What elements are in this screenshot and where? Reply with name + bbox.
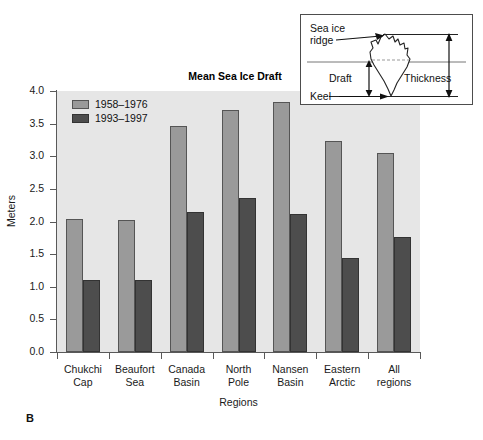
y-tick-label-0.0: 0.0 — [0, 346, 44, 356]
legend: 1958–1976 1993–1997 — [72, 98, 148, 126]
x-category-line: North — [213, 363, 265, 376]
x-tick-separator — [213, 353, 214, 359]
legend-swatch-1993-1997 — [72, 114, 89, 123]
bar — [273, 102, 290, 352]
inset-label-sea-ice-ridge-line1: Sea ice — [310, 22, 345, 34]
ridge-pointer-line — [336, 36, 381, 40]
x-tick-separator — [316, 353, 317, 359]
y-axis-line — [56, 90, 57, 353]
y-tick-label-3.0: 3.0 — [0, 150, 44, 160]
bar — [83, 280, 100, 352]
x-category-line: Pole — [213, 376, 265, 389]
bar — [394, 237, 411, 352]
bar — [118, 220, 135, 352]
bar — [377, 153, 394, 352]
inset-label-sea-ice-ridge-line2: ridge — [310, 34, 334, 46]
x-tick-separator — [161, 353, 162, 359]
x-tick-end-1 — [420, 353, 421, 359]
x-category-label: NansenBasin — [264, 363, 316, 389]
legend-label-1958-1976: 1958–1976 — [95, 98, 148, 111]
y-tick-0.0 — [50, 352, 56, 353]
y-tick-2.5 — [50, 189, 56, 190]
panel-letter: B — [26, 412, 34, 424]
legend-item-1: 1993–1997 — [72, 112, 148, 125]
x-tick-separator — [264, 353, 265, 359]
x-category-label: EasternArctic — [316, 363, 368, 389]
x-tick-separator — [368, 353, 369, 359]
bar — [239, 198, 256, 352]
x-category-line: Basin — [264, 376, 316, 389]
y-tick-label-3.5: 3.5 — [0, 118, 44, 128]
bar — [187, 212, 204, 352]
bar — [342, 258, 359, 352]
y-tick-label-4.0: 4.0 — [0, 85, 44, 95]
y-tick-2.0 — [50, 222, 56, 223]
y-tick-1.5 — [50, 254, 56, 255]
x-category-label: BeaufortSea — [109, 363, 161, 389]
sea-ice-inset-diagram: Sea ice ridge Draft Thickness Keel — [300, 14, 473, 105]
x-category-label: ChukchiCap — [57, 363, 109, 389]
y-tick-1.0 — [50, 287, 56, 288]
figure-panel-b: 0.00.51.01.52.02.53.03.54.0 Meters Chukc… — [0, 0, 483, 440]
y-tick-label-0.5: 0.5 — [0, 313, 44, 323]
inset-label-keel: Keel — [310, 90, 331, 102]
legend-item-0: 1958–1976 — [72, 98, 148, 111]
y-tick-3.5 — [50, 124, 56, 125]
x-category-line: Basin — [161, 376, 213, 389]
legend-label-1993-1997: 1993–1997 — [95, 112, 148, 125]
x-category-line: Canada — [161, 363, 213, 376]
x-tick-separator — [109, 353, 110, 359]
x-category-line: Chukchi — [57, 363, 109, 376]
y-tick-label-1.0: 1.0 — [0, 281, 44, 291]
x-category-label: CanadaBasin — [161, 363, 213, 389]
keel-pointer-arrowhead — [380, 94, 389, 100]
x-category-line: Eastern — [316, 363, 368, 376]
inset-svg: Sea ice ridge Draft Thickness Keel — [301, 15, 472, 104]
y-tick-3.0 — [50, 156, 56, 157]
bar — [325, 141, 342, 352]
bar — [222, 110, 239, 352]
bar — [66, 219, 83, 352]
y-tick-label-1.5: 1.5 — [0, 248, 44, 258]
ice-floe-shape — [370, 34, 410, 96]
x-category-label: NorthPole — [213, 363, 265, 389]
y-tick-4.0 — [50, 91, 56, 92]
bar — [290, 214, 307, 352]
x-category-line: regions — [368, 376, 420, 389]
x-category-line: Sea — [109, 376, 161, 389]
x-category-line: Arctic — [316, 376, 368, 389]
x-category-label: Allregions — [368, 363, 420, 389]
inset-label-draft: Draft — [329, 72, 352, 84]
legend-swatch-1958-1976 — [72, 100, 89, 109]
x-tick-end-0 — [57, 353, 58, 359]
y-tick-0.5 — [50, 319, 56, 320]
draft-arrow-up-head — [366, 60, 373, 67]
x-axis-title: Regions — [57, 396, 420, 408]
x-category-line: Beaufort — [109, 363, 161, 376]
x-axis-line — [56, 352, 421, 353]
x-category-line: All — [368, 363, 420, 376]
x-category-line: Nansen — [264, 363, 316, 376]
bar — [135, 280, 152, 352]
chart-title: Mean Sea Ice Draft — [160, 70, 310, 82]
bar — [170, 126, 187, 352]
x-category-line: Cap — [57, 376, 109, 389]
inset-label-thickness: Thickness — [404, 72, 451, 84]
y-axis-title: Meters — [5, 181, 17, 241]
